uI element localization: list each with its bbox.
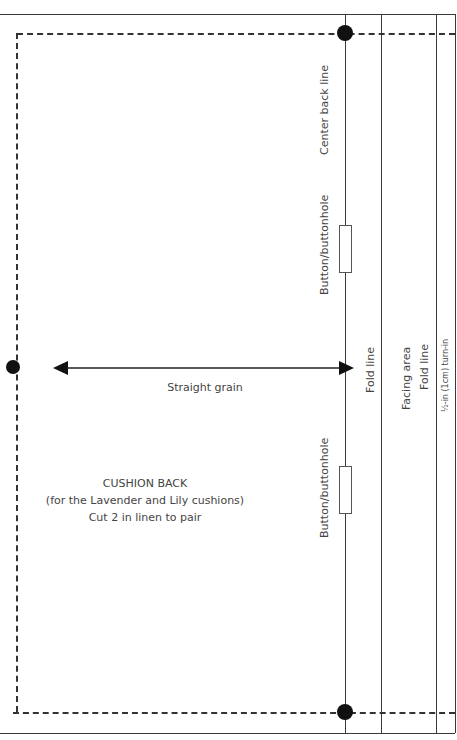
facing-area-label: Facing area [400, 347, 413, 410]
pattern-title: CUSHION BACK [20, 475, 270, 492]
right-border-line [455, 14, 456, 733]
seam-line-top [17, 33, 455, 35]
buttonhole-marker-top [339, 225, 352, 273]
marker-dot-bottom [337, 704, 353, 720]
fold-line-1 [381, 14, 382, 733]
fold-line-label-2: Fold line [418, 344, 431, 390]
straight-grain-arrow-icon [50, 358, 356, 378]
fold-line-label-1: Fold line [364, 347, 377, 393]
buttonhole-label-bottom: Button/buttonhole [318, 438, 331, 538]
marker-dot-top [337, 25, 353, 41]
pattern-subtitle: (for the Lavender and Lily cushions) [20, 492, 270, 509]
top-border-line [0, 14, 455, 15]
buttonhole-marker-bottom [339, 466, 352, 514]
fold-line-2 [436, 14, 437, 733]
buttonhole-label-top: Button/buttonhole [318, 195, 331, 295]
pattern-instruction: Cut 2 in linen to pair [20, 509, 270, 526]
turn-in-label: ½-in (1cm) turn-in [441, 339, 450, 412]
center-back-label: Center back line [318, 65, 331, 155]
marker-dot-left [6, 360, 20, 374]
bottom-border-line [0, 733, 455, 734]
grain-label: Straight grain [140, 379, 270, 396]
seam-line-bottom [13, 712, 455, 714]
